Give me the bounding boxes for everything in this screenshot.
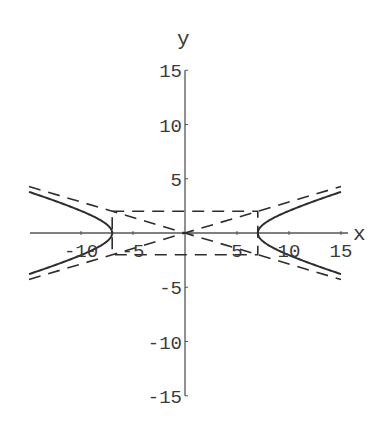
x-tick-label: -5	[122, 241, 145, 263]
x-tick-label: 5	[231, 241, 242, 263]
y-tick-label: 5	[171, 170, 182, 192]
y-tick-label: 15	[159, 61, 182, 83]
labels: y x -10-55101515105-5-10-15	[64, 28, 366, 409]
y-tick-label: -5	[159, 278, 182, 300]
x-tick-label: -10	[64, 241, 98, 263]
y-tick-label: -10	[148, 333, 182, 355]
y-axis-label: y	[177, 28, 190, 51]
y-tick-label: 10	[159, 116, 182, 138]
x-tick-label: 15	[330, 241, 353, 263]
hyperbola-plot: y x -10-55101515105-5-10-15	[0, 0, 391, 429]
x-tick-label: 10	[278, 241, 301, 263]
x-axis-label: x	[353, 223, 366, 246]
axes	[30, 70, 348, 396]
y-tick-label: -15	[148, 387, 182, 409]
